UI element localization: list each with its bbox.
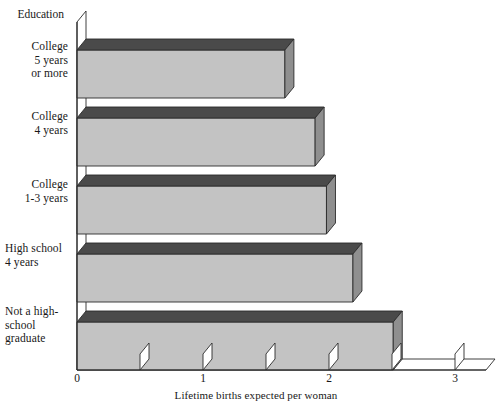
category-label-4: Not a high- school graduate <box>5 305 69 346</box>
bar-item <box>77 311 402 370</box>
bar-front-face <box>77 254 353 302</box>
chart-container: Education College 5 years or moreCollege… <box>0 0 503 416</box>
y-axis-title: Education <box>0 8 64 21</box>
category-label-0: College 5 years or more <box>0 40 68 81</box>
bar-top-face <box>77 39 294 50</box>
bar-side-face <box>353 243 362 302</box>
bar-item <box>77 243 362 302</box>
bar-top-face <box>77 311 402 322</box>
bar-item <box>77 107 324 166</box>
bar-front-face <box>77 118 315 166</box>
bar-top-face <box>77 175 335 186</box>
bar-side-face <box>326 175 335 234</box>
bar-front-face <box>77 186 326 234</box>
x-tick-label: 2 <box>317 372 341 384</box>
bar-front-face <box>77 50 285 98</box>
x-axis-title: Lifetime births expected per woman <box>131 389 381 401</box>
x-tick-label: 0 <box>65 372 89 384</box>
bar-side-face <box>315 107 324 166</box>
bar-chart-graphic <box>0 0 503 416</box>
bar-top-face <box>77 107 324 118</box>
category-label-3: High school 4 years <box>5 242 69 269</box>
bar-side-face <box>285 39 294 98</box>
x-tick-label: 1 <box>191 372 215 384</box>
bar-top-face <box>77 243 362 254</box>
x-tick-label: 3 <box>443 372 467 384</box>
bar-front-face <box>77 322 393 370</box>
category-label-1: College 4 years <box>0 110 68 137</box>
bar-item <box>77 175 335 234</box>
bar-item <box>77 39 294 98</box>
category-label-2: College 1-3 years <box>0 178 68 205</box>
